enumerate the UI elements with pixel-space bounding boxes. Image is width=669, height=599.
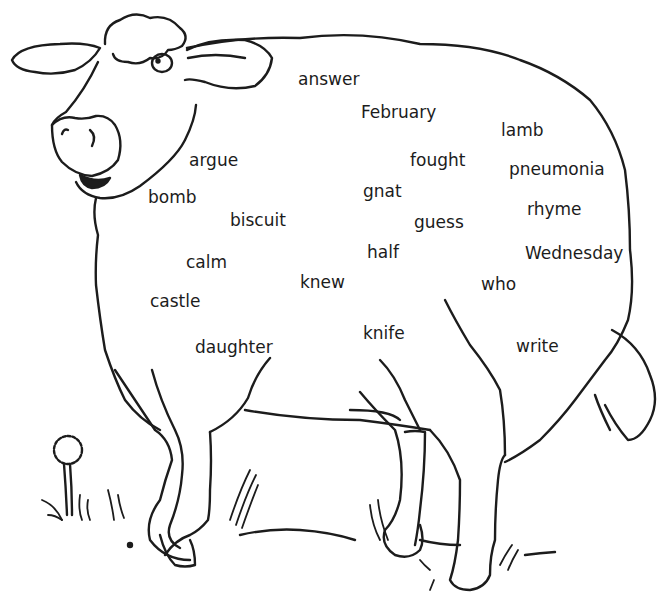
word-write: write (516, 338, 559, 355)
word-rhyme: rhyme (527, 201, 582, 218)
front-leg-left (115, 370, 190, 560)
belly (245, 410, 430, 430)
mouth (80, 175, 110, 188)
word-who: who (481, 276, 516, 293)
word-lamb: lamb (501, 122, 544, 139)
neck (94, 198, 160, 430)
word-half: half (367, 244, 399, 261)
word-knife: knife (363, 325, 405, 342)
front-hoof (160, 535, 195, 567)
nostril (90, 130, 94, 146)
muzzle (52, 116, 120, 176)
word-gnat: gnat (363, 183, 402, 200)
flower-stem (64, 464, 72, 515)
word-knew: knew (300, 274, 345, 291)
word-bomb: bomb (148, 189, 197, 206)
rear-leg (430, 430, 505, 590)
word-february: February (361, 104, 436, 121)
word-daughter: daughter (195, 339, 273, 356)
word-argue: argue (189, 152, 238, 169)
face-contour (52, 62, 98, 125)
word-pneumonia: pneumonia (509, 161, 605, 178)
flower-head (54, 436, 82, 464)
sheep-worksheet: answer February lamb argue fought pneumo… (0, 0, 669, 599)
head-tuft (105, 14, 186, 63)
sheep-outline-drawing (0, 0, 669, 599)
word-answer: answer (298, 71, 359, 88)
word-biscuit: biscuit (230, 212, 286, 229)
right-ear (185, 40, 272, 89)
tail (605, 330, 655, 440)
ground (240, 530, 355, 540)
word-fought: fought (410, 152, 465, 169)
word-guess: guess (414, 214, 464, 231)
left-ear (12, 44, 100, 74)
word-wednesday: Wednesday (525, 245, 623, 262)
word-castle: castle (150, 293, 200, 310)
word-calm: calm (186, 254, 227, 271)
